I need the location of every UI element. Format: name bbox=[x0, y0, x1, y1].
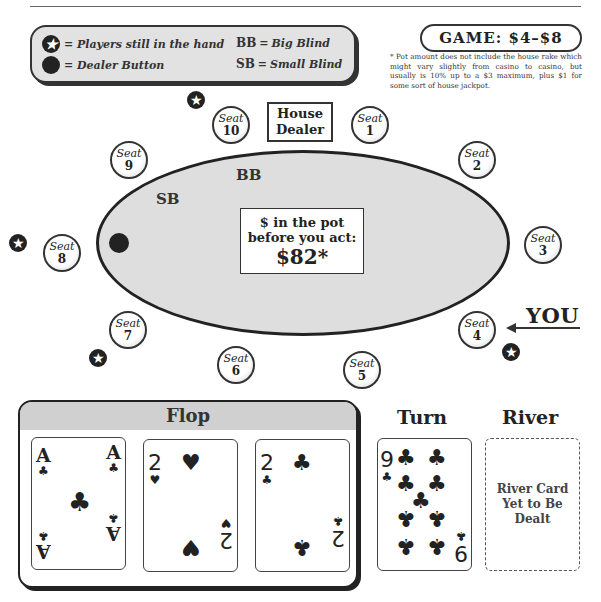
legend-small-blind: SB = Small Blind bbox=[236, 57, 342, 71]
pot-amount: $82* bbox=[241, 245, 363, 269]
pot-footnote: * Pot amount does not include the house … bbox=[390, 52, 582, 90]
flop-card-3: 2 ♣ ♣ ♣ 2 ♣ bbox=[255, 439, 350, 572]
star-icon: ★ bbox=[502, 343, 520, 361]
card-index-bottom: A ♣ bbox=[36, 530, 51, 561]
card-index-bottom: 2 ♥ bbox=[219, 517, 233, 551]
river-placeholder-line1: River Card bbox=[497, 482, 569, 497]
legend-players-label: = Players still in the hand bbox=[64, 38, 224, 51]
card-rank: A bbox=[106, 524, 121, 543]
card-rank: 9 bbox=[380, 449, 394, 471]
dealer-button-icon bbox=[42, 56, 60, 74]
big-blind-label: BB bbox=[236, 166, 261, 184]
you-label: YOU bbox=[526, 303, 579, 328]
seat-number: 9 bbox=[125, 160, 133, 172]
card-rank: 9 bbox=[454, 542, 468, 564]
river-placeholder-line2: Yet to Be bbox=[497, 497, 569, 512]
seat-7[interactable]: Seat 7 bbox=[109, 311, 147, 349]
club-icon: ♣ bbox=[380, 471, 394, 483]
flop-card-1: A ♣ A ♣ ♣ A ♣ A ♣ bbox=[31, 437, 126, 570]
star-icon: ★ bbox=[42, 35, 60, 53]
card-rank: A bbox=[36, 542, 51, 561]
seat-number: 8 bbox=[58, 253, 66, 265]
seat-2[interactable]: Seat 2 bbox=[458, 141, 496, 179]
club-icon: ♣ bbox=[396, 535, 416, 557]
top-divider bbox=[30, 6, 581, 7]
seat-3[interactable]: Seat 3 bbox=[524, 226, 562, 264]
club-icon: ♣ bbox=[292, 536, 312, 558]
card-index-top: 2 ♣ bbox=[260, 452, 274, 486]
legend-sb-abbr: SB bbox=[236, 57, 255, 71]
river-title: River bbox=[502, 406, 558, 428]
club-icon: ♣ bbox=[427, 507, 447, 529]
seat-number: 1 bbox=[366, 125, 374, 137]
card-rank: 2 bbox=[260, 452, 274, 474]
legend-dealer-button: = Dealer Button bbox=[42, 56, 164, 74]
seat-8[interactable]: Seat 8 bbox=[43, 234, 81, 272]
card-index-top-right: A ♣ bbox=[106, 443, 121, 474]
house-dealer-line2: Dealer bbox=[269, 122, 331, 138]
pot-label-line1: $ in the pot bbox=[241, 215, 363, 230]
arrow-left-icon bbox=[506, 323, 516, 333]
turn-card: 9 ♣ ♣ ♣ ♣ ♣ ♣ ♣ ♣ ♣ ♣ 9 ♣ bbox=[377, 438, 472, 571]
club-icon: ♣ bbox=[106, 462, 121, 474]
club-icon: ♣ bbox=[68, 489, 91, 515]
club-icon: ♣ bbox=[292, 452, 312, 474]
seat-6[interactable]: Seat 6 bbox=[217, 346, 255, 384]
club-icon: ♣ bbox=[427, 535, 447, 557]
pot-label-line2: before you act: bbox=[241, 230, 363, 245]
seat-1[interactable]: Seat 1 bbox=[351, 106, 389, 144]
star-icon: ★ bbox=[187, 91, 205, 109]
card-rank: 2 bbox=[219, 529, 233, 551]
card-index-top: 2 ♥ bbox=[148, 452, 162, 486]
card-rank: 2 bbox=[148, 452, 162, 474]
card-index-top: A ♣ bbox=[36, 446, 51, 477]
club-icon: ♣ bbox=[427, 447, 447, 469]
legend-players-in-hand: ★ = Players still in the hand bbox=[42, 35, 224, 53]
legend-dealer-label: = Dealer Button bbox=[64, 59, 164, 72]
seat-number: 7 bbox=[124, 330, 132, 342]
club-icon: ♣ bbox=[36, 465, 51, 477]
legend-bb-eq: = bbox=[259, 37, 268, 50]
dealer-button-icon bbox=[109, 233, 129, 253]
seat-number: 10 bbox=[223, 125, 240, 137]
club-icon: ♣ bbox=[396, 507, 416, 529]
card-rank: A bbox=[106, 443, 121, 462]
club-icon: ♣ bbox=[36, 530, 51, 542]
legend-sb-eq: = bbox=[258, 58, 267, 71]
card-index-bottom: 9 ♣ bbox=[454, 530, 468, 564]
seat-number: 3 bbox=[539, 245, 547, 257]
small-blind-label: SB bbox=[156, 190, 180, 208]
legend-big-blind: BB = Big Blind bbox=[236, 36, 330, 50]
pot-box: $ in the pot before you act: $82* bbox=[240, 208, 364, 274]
seat-number: 6 bbox=[232, 365, 240, 377]
card-index-bottom-right: A ♣ bbox=[106, 512, 121, 543]
house-dealer-box: House Dealer bbox=[267, 102, 333, 142]
club-icon: ♣ bbox=[260, 474, 274, 486]
seat-number: 5 bbox=[358, 370, 366, 382]
heart-icon: ♥ bbox=[219, 517, 233, 529]
legend-bb-text: Big Blind bbox=[272, 37, 330, 50]
card-index-bottom: 2 ♣ bbox=[331, 515, 345, 549]
heart-icon: ♥ bbox=[181, 452, 201, 474]
river-card-placeholder: River Card Yet to Be Dealt bbox=[485, 438, 580, 571]
seat-10[interactable]: Seat 10 bbox=[212, 106, 250, 144]
club-icon: ♣ bbox=[331, 515, 345, 527]
card-rank: 2 bbox=[331, 527, 345, 549]
star-icon: ★ bbox=[89, 349, 107, 367]
star-icon: ★ bbox=[9, 234, 27, 252]
club-icon: ♣ bbox=[396, 447, 416, 469]
seat-number: 4 bbox=[473, 330, 481, 342]
seat-4[interactable]: Seat 4 bbox=[458, 311, 496, 349]
house-dealer-line1: House bbox=[269, 106, 331, 122]
flop-title: Flop bbox=[20, 402, 356, 430]
seat-9[interactable]: Seat 9 bbox=[110, 141, 148, 179]
heart-icon: ♥ bbox=[181, 536, 201, 558]
seat-number: 2 bbox=[473, 160, 481, 172]
river-placeholder-line3: Dealt bbox=[497, 512, 569, 527]
card-rank: A bbox=[36, 446, 51, 465]
legend-sb-text: Small Blind bbox=[270, 58, 342, 71]
turn-title: Turn bbox=[397, 406, 447, 428]
club-icon: ♣ bbox=[454, 530, 468, 542]
seat-5[interactable]: Seat 5 bbox=[343, 351, 381, 389]
game-limit-badge: GAME: $4–$8 bbox=[420, 24, 582, 52]
